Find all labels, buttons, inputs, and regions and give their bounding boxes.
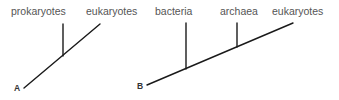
panel-b-tree: bacteria archaea eukaryotes B — [137, 5, 323, 91]
taxon-label-bacteria-b: bacteria — [155, 5, 193, 17]
panel-letter-b: B — [137, 81, 143, 91]
phylogeny-diagram: prokaryotes eukaryotes A bacteria archae… — [0, 0, 339, 100]
panel-a-tree: prokaryotes eukaryotes A — [11, 5, 137, 93]
main-branch-a — [24, 24, 100, 88]
main-branch-b — [147, 23, 293, 85]
taxon-label-eukaryotes-b: eukaryotes — [272, 5, 323, 17]
taxon-label-archaea-b: archaea — [220, 5, 258, 17]
taxon-label-eukaryotes-a: eukaryotes — [86, 5, 137, 17]
taxon-label-prokaryotes-a: prokaryotes — [11, 5, 66, 17]
panel-letter-a: A — [14, 83, 20, 93]
